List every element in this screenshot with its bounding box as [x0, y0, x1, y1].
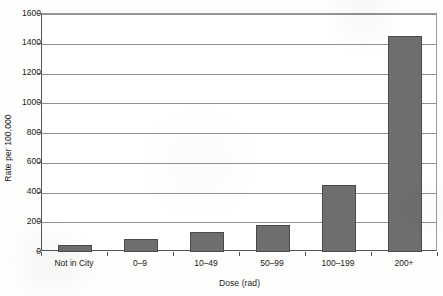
bar	[124, 239, 158, 252]
x-axis-tick-mark	[173, 252, 174, 256]
y-axis-tick-marks	[0, 0, 41, 296]
x-axis-category-label: 50–99	[239, 259, 305, 268]
gridline	[42, 103, 436, 104]
bar	[388, 36, 422, 252]
bar	[58, 245, 92, 252]
gridline	[42, 74, 436, 75]
x-axis-category-label: Not in City	[41, 259, 107, 268]
x-axis-category-label: 200+	[371, 259, 437, 268]
plot-area	[41, 13, 437, 251]
x-axis-tick-mark	[437, 252, 438, 256]
bar-chart-figure: Rate per 100,000 02004006008001000120014…	[0, 0, 443, 296]
bar	[190, 232, 224, 252]
gridline	[42, 193, 436, 194]
x-axis-tick-mark	[107, 252, 108, 256]
x-axis-category-label: 10–49	[173, 259, 239, 268]
gridlines	[42, 14, 436, 250]
gridline	[42, 163, 436, 164]
x-axis-tick-mark	[239, 252, 240, 256]
bar	[322, 185, 356, 252]
x-axis-tick-mark	[41, 252, 42, 256]
x-axis-title: Dose (rad)	[40, 278, 439, 288]
gridline	[42, 14, 436, 15]
bar	[256, 225, 290, 252]
x-axis-category-label: 0–9	[107, 259, 173, 268]
x-axis-tick-mark	[305, 252, 306, 256]
gridline	[42, 133, 436, 134]
gridline	[42, 222, 436, 223]
gridline	[42, 44, 436, 45]
x-axis-category-label: 100–199	[305, 259, 371, 268]
x-axis-tick-mark	[371, 252, 372, 256]
